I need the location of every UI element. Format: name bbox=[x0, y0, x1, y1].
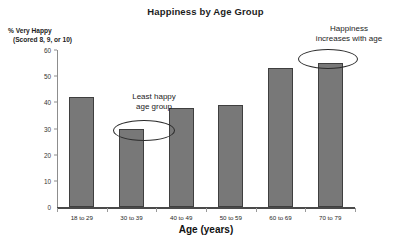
annotation-increases-with-age-line2: increases with age bbox=[293, 34, 405, 44]
y-axis-title-line2: (Scored 8, 9, or 10) bbox=[8, 36, 100, 45]
bar bbox=[218, 105, 243, 207]
x-tick-mark bbox=[355, 208, 356, 212]
x-tick-mark bbox=[107, 208, 108, 212]
y-tick-mark bbox=[54, 50, 57, 51]
y-tick-mark bbox=[54, 102, 57, 103]
bar bbox=[318, 63, 343, 207]
y-axis-title: % Very Happy (Scored 8, 9, or 10) bbox=[8, 27, 100, 45]
y-tick-label: 30 bbox=[29, 125, 51, 132]
bar bbox=[69, 97, 94, 207]
y-tick-label: 20 bbox=[29, 151, 51, 158]
y-tick-label: 40 bbox=[29, 99, 51, 106]
ellipse-marker-least-happy bbox=[113, 120, 175, 141]
x-tick-mark bbox=[305, 208, 306, 212]
y-tick-mark bbox=[54, 76, 57, 77]
y-tick-mark bbox=[54, 128, 57, 129]
y-axis-title-line1: % Very Happy bbox=[8, 27, 100, 36]
x-tick-mark bbox=[256, 208, 257, 212]
annotation-increases-with-age: Happiness increases with age bbox=[293, 24, 405, 45]
ellipse-marker-increases-with-age bbox=[298, 49, 358, 69]
plot-area: 0102030405060 18 to 2930 to 3940 to 4950… bbox=[57, 50, 355, 208]
x-tick-mark bbox=[206, 208, 207, 212]
y-tick-mark bbox=[54, 154, 57, 155]
y-tick-mark bbox=[54, 180, 57, 181]
annotation-least-happy-line2: age group bbox=[106, 102, 202, 112]
y-tick-label: 60 bbox=[29, 47, 51, 54]
bar bbox=[268, 68, 293, 207]
x-tick-mark bbox=[57, 208, 58, 212]
y-tick-label: 10 bbox=[29, 177, 51, 184]
y-tick-label: 0 bbox=[29, 204, 51, 211]
annotation-increases-with-age-line1: Happiness bbox=[293, 24, 405, 34]
x-axis-title: Age (years) bbox=[57, 224, 355, 235]
y-axis-line bbox=[57, 50, 58, 208]
x-tick-mark bbox=[156, 208, 157, 212]
annotation-least-happy: Least happy age group bbox=[106, 92, 202, 113]
bar bbox=[169, 108, 194, 207]
annotation-least-happy-line1: Least happy bbox=[106, 92, 202, 102]
bar-chart: Happiness by Age Group % Very Happy (Sco… bbox=[0, 0, 411, 252]
x-category-label: 70 to 79 bbox=[300, 214, 360, 221]
chart-title: Happiness by Age Group bbox=[0, 6, 411, 17]
y-tick-label: 50 bbox=[29, 73, 51, 80]
